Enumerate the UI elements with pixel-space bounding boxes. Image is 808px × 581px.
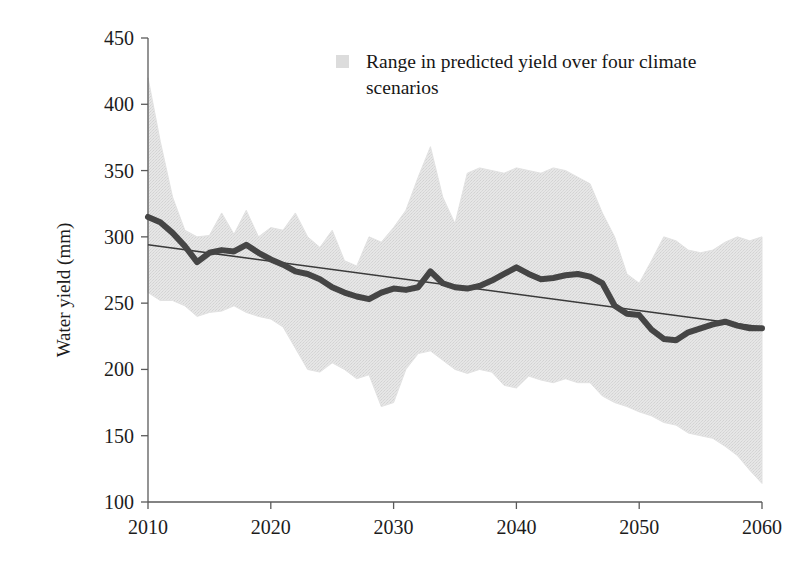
- x-tick-label: 2060: [742, 516, 782, 538]
- legend-label-line-1: Range in predicted yield over four clima…: [366, 51, 696, 72]
- range-band-area: [148, 78, 762, 484]
- x-axis-ticks: [148, 502, 762, 509]
- legend-label-line-2: scenarios: [366, 77, 439, 98]
- chart-figure: 100150200250300350400450 201020202030204…: [0, 0, 808, 581]
- x-tick-label: 2010: [128, 516, 168, 538]
- y-tick-label: 100: [104, 491, 134, 513]
- y-axis-label: Water yield (mm): [53, 223, 75, 358]
- y-tick-label: 400: [104, 93, 134, 115]
- x-tick-label: 2020: [251, 516, 291, 538]
- x-tick-label: 2030: [374, 516, 414, 538]
- y-tick-label: 250: [104, 292, 134, 314]
- y-tick-label: 450: [104, 27, 134, 49]
- x-tick-label: 2040: [496, 516, 536, 538]
- water-yield-area-chart: 100150200250300350400450 201020202030204…: [0, 0, 808, 581]
- y-axis-ticks: [141, 38, 148, 502]
- chart-legend: Range in predicted yield over four clima…: [336, 51, 696, 98]
- legend-swatch-range: [336, 55, 349, 68]
- y-tick-label: 300: [104, 226, 134, 248]
- y-tick-label: 200: [104, 358, 134, 380]
- x-axis-tick-labels: 201020202030204020502060: [128, 516, 782, 538]
- y-tick-label: 350: [104, 160, 134, 182]
- range-band: [148, 78, 762, 484]
- y-tick-label: 150: [104, 425, 134, 447]
- y-axis-tick-labels: 100150200250300350400450: [104, 27, 134, 513]
- x-tick-label: 2050: [619, 516, 659, 538]
